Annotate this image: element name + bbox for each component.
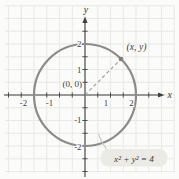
point-dot <box>119 57 124 62</box>
x-tick-neg2-label: -2 <box>20 98 27 108</box>
x-tick-neg1-label: -1 <box>46 98 53 108</box>
y-tick-1-label: 1 <box>77 65 81 75</box>
x-tick-2-label: 2 <box>129 98 133 108</box>
y-tick-2-label: 2 <box>77 39 81 49</box>
x-tick-1-label: 1 <box>104 98 108 108</box>
y-tick-neg1-label: -1 <box>74 115 81 125</box>
circle-graph-svg: y x -2 -1 1 2 2 1 -1 -2 (0, 0) (x, y) x²… <box>0 0 179 179</box>
y-tick-neg2-label: -2 <box>74 142 81 152</box>
math-figure: y x -2 -1 1 2 2 1 -1 -2 (0, 0) (x, y) x²… <box>0 0 179 179</box>
x-axis-label: x <box>167 89 173 100</box>
y-axis-label: y <box>83 4 89 15</box>
point-label: (x, y) <box>127 41 147 53</box>
origin-label: (0, 0) <box>63 79 83 89</box>
equation-label: x² + y² = 4 <box>113 154 154 164</box>
